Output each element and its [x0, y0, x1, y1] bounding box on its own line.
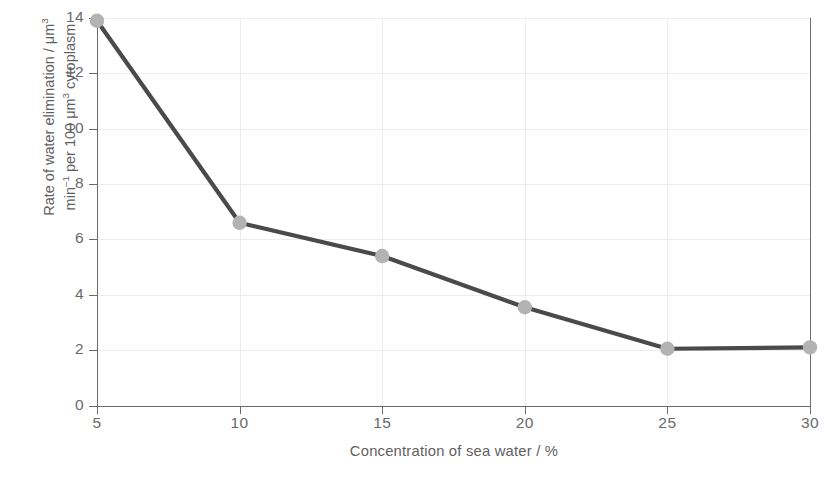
gridline-horizontal — [97, 73, 810, 74]
y-axis-tick-label: 2 — [44, 340, 84, 358]
y-axis-tick — [89, 239, 97, 240]
y-axis-tick-label: 0 — [44, 396, 84, 414]
x-axis-tick — [525, 406, 526, 414]
y-axis-tick — [89, 73, 97, 74]
gridline-vertical — [382, 18, 383, 406]
y-axis-tick — [89, 295, 97, 296]
x-axis-tick-label: 5 — [67, 414, 127, 432]
gridline-vertical — [525, 18, 526, 406]
gridline-vertical — [667, 18, 668, 406]
x-axis-title: Concentration of sea water / % — [97, 443, 811, 459]
y-axis-tick — [89, 406, 97, 407]
x-axis-tick-label: 10 — [210, 414, 270, 432]
y-axis-title-line-1: Rate of water elimination / μm3 — [39, 0, 60, 327]
gridline-horizontal — [97, 18, 810, 19]
x-axis-tick-label: 30 — [780, 414, 835, 432]
figure-frame-right — [810, 18, 811, 406]
gridline-horizontal — [97, 184, 810, 185]
x-axis-tick — [667, 406, 668, 414]
gridline-vertical — [240, 18, 241, 406]
y-axis-title-line-2: min–1 per 100 μm3 cytoplasm — [60, 0, 81, 327]
gridline-horizontal — [97, 295, 810, 296]
x-axis-tick — [810, 406, 811, 414]
y-axis-tick — [89, 350, 97, 351]
y-axis-line — [97, 18, 98, 406]
y-axis-tick — [89, 184, 97, 185]
x-axis-tick-label: 15 — [352, 414, 412, 432]
gridline-horizontal — [97, 129, 810, 130]
x-axis-line — [97, 406, 811, 407]
chart-figure: 02468101214 51015202530 Rate of water el… — [0, 0, 835, 479]
y-axis-title: Rate of water elimination / μm3 min–1 pe… — [39, 0, 81, 327]
x-axis-tick — [382, 406, 383, 414]
gridline-horizontal — [97, 350, 810, 351]
x-axis-tick — [240, 406, 241, 414]
y-axis-tick — [89, 18, 97, 19]
x-axis-tick-label: 20 — [495, 414, 555, 432]
gridline-horizontal — [97, 239, 810, 240]
y-axis-tick — [89, 129, 97, 130]
x-axis-tick — [97, 406, 98, 414]
x-axis-tick-label: 25 — [637, 414, 697, 432]
